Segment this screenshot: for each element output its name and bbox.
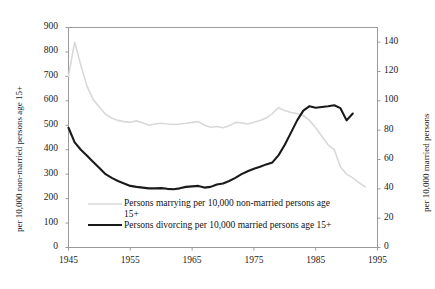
plot-area (0, 0, 435, 289)
legend-label-divorcing-line1: Persons divorcing per 10,000 married per… (124, 220, 331, 230)
legend-label-marrying-line1: Persons marrying per 10,000 non-married … (124, 198, 330, 208)
legend-label-marrying-line2: 15+ (124, 209, 139, 219)
chart-figure: per 10,000 non-married persons age 15+ p… (0, 0, 435, 289)
plot-border (69, 28, 378, 248)
